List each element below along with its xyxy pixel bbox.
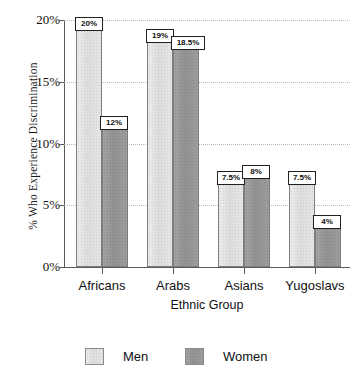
x-axis-category-labels: AfricansArabsAsiansYugoslavs [64,278,350,298]
y-axis-tick-labels: 0%5%10%15%20% [8,0,60,385]
x-axis-title: Ethnic Group [64,298,350,312]
bar-group [147,20,199,267]
bar-men [76,20,102,267]
legend-label: Men [123,349,148,364]
x-axis-baseline [64,267,350,268]
y-axis-tick-label: 0% [14,259,60,275]
y-axis-tick-mark [59,82,64,83]
data-label-men: 19% [146,29,174,43]
data-label-women: 18.5% [171,36,205,50]
y-axis-tick-mark [59,267,64,268]
legend-swatch-men [85,348,104,365]
data-label-men: 20% [75,17,103,31]
y-axis-tick-label: 5% [14,197,60,213]
y-axis-tick-label: 10% [14,136,60,152]
x-axis-category-label: Yugoslavs [270,278,358,293]
x-axis-tick-mark [315,267,316,274]
data-label-women: 12% [100,116,128,130]
x-axis-tick-mark [173,267,174,274]
bar-group [76,20,128,267]
legend-swatch-women [185,348,204,365]
x-axis-tick-mark [102,267,103,274]
legend-entry: Women [185,348,268,365]
bar-women [173,39,199,267]
bar-women [244,168,270,267]
data-label-men: 7.5% [217,171,245,185]
data-label-men: 7.5% [288,171,316,185]
legend-label: Women [223,349,268,364]
y-axis-tick-mark [59,144,64,145]
x-axis-tick-mark [244,267,245,274]
y-axis-tick-mark [59,20,64,21]
bar-men [218,174,244,267]
y-axis-tick-label: 15% [14,74,60,90]
bar-men [147,32,173,267]
legend-entry: Men [85,348,148,365]
bar-women [102,119,128,267]
bar-men [289,174,315,267]
data-label-women: 8% [242,165,270,179]
bar-group [289,20,341,267]
chart-legend: MenWomen [0,348,358,378]
bar-group [218,20,270,267]
y-axis-tick-label: 20% [14,12,60,28]
y-axis-tick-mark [59,205,64,206]
bar-chart: % Who Experience Discrimination 0%5%10%1… [0,0,358,385]
data-label-women: 4% [313,215,341,229]
plot-area: 20%12%19%18.5%7.5%8%7.5%4% [64,20,350,267]
